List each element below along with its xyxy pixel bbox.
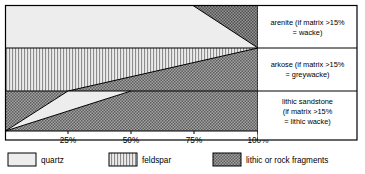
arkose-label-line2: = greywacke) [285, 70, 329, 79]
legend-label-feldspar: feldspar [142, 156, 171, 165]
plot-area [6, 6, 259, 141]
legend-swatch-lithic [213, 153, 241, 166]
lithic-label-line2: (if matrix >15% [283, 107, 333, 116]
band-lithic-sandstone [6, 91, 259, 131]
arkose-label-line1: arkose (if matrix >15% [271, 60, 345, 69]
legend-label-quartz: quartz [41, 156, 64, 165]
legend-swatch-quartz [8, 153, 36, 166]
lithic-label-line3: = lithic wacke) [284, 117, 331, 126]
sandstone-classification-figure: 25% 50% 75% 100% arenite (if matrix >15%… [0, 0, 365, 174]
label-cell-lithic-sandstone: lithic sandstone (if matrix >15% = lithi… [282, 97, 333, 126]
chart-svg: 25% 50% 75% 100% arenite (if matrix >15%… [0, 0, 365, 174]
lithic-label-line1: lithic sandstone [282, 97, 333, 106]
label-panel: arenite (if matrix >15% = wacke) arkose … [258, 6, 357, 141]
arenite-label-line2: = wacke) [293, 28, 323, 37]
arenite-label-line1: arenite (if matrix >15% [270, 18, 345, 27]
band-arenite [6, 6, 259, 49]
legend-swatch-feldspar [109, 153, 137, 166]
legend-label-lithic: lithic or rock fragments [246, 156, 328, 165]
